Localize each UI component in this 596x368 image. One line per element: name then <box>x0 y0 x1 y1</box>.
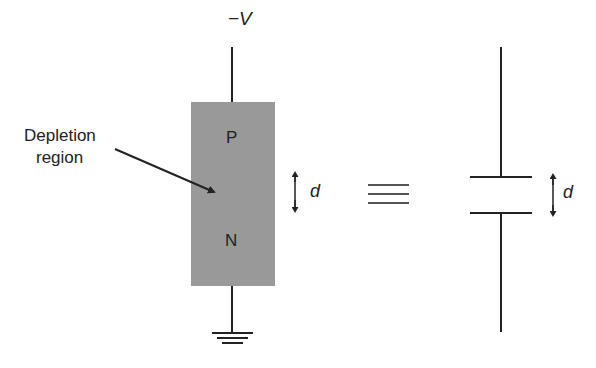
depletion-label: Depletion <box>24 126 96 146</box>
distance-label-right: d <box>563 182 573 203</box>
capacitor-icon <box>470 47 532 332</box>
p-type-label: P <box>226 128 237 148</box>
n-type-label: N <box>225 231 237 251</box>
diagram-canvas <box>0 0 596 368</box>
region-label: region <box>36 148 83 168</box>
distance-label-left: d <box>310 181 320 202</box>
equivalent-icon <box>368 185 409 203</box>
ground-icon <box>212 333 253 343</box>
voltage-label: −V <box>228 8 252 30</box>
